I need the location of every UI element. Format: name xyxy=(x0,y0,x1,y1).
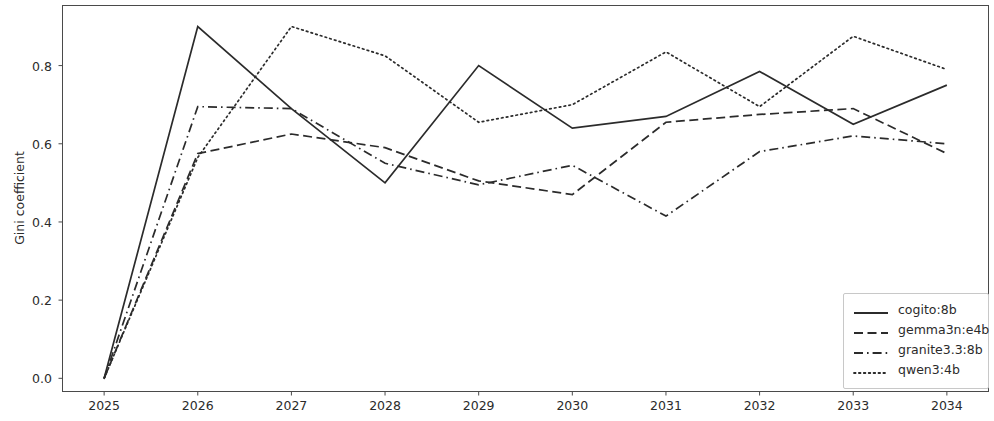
legend-line-swatch xyxy=(852,344,890,356)
legend-label: cogito:8b xyxy=(898,304,957,317)
x-tick-label: 2030 xyxy=(556,398,588,413)
axis-ticks xyxy=(59,66,947,396)
legend-item: gemma3n:e4b xyxy=(852,320,981,340)
series-line-gemma3n-e4b xyxy=(104,109,947,379)
chart-figure: Gini coefficient 0.00.20.40.60.8 cogito:… xyxy=(0,0,994,421)
series-line-qwen3-4b xyxy=(104,27,947,379)
legend-label: qwen3:4b xyxy=(898,364,960,377)
y-tick-label: 0.4 xyxy=(8,214,52,229)
x-tick-label: 2026 xyxy=(182,398,214,413)
x-tick-label: 2027 xyxy=(276,398,308,413)
x-tick-label: 2032 xyxy=(744,398,776,413)
legend-item: qwen3:4b xyxy=(852,360,981,380)
legend-item: granite3.3:8b xyxy=(852,340,981,360)
x-tick-label: 2028 xyxy=(369,398,401,413)
x-tick-label: 2031 xyxy=(650,398,682,413)
y-tick-label: 0.0 xyxy=(8,371,52,386)
x-tick-label: 2034 xyxy=(931,398,963,413)
y-tick-label: 0.8 xyxy=(8,58,52,73)
legend-label: granite3.3:8b xyxy=(898,344,983,357)
legend-label: gemma3n:e4b xyxy=(898,324,989,337)
legend-line-swatch xyxy=(852,324,890,336)
x-tick-label: 2033 xyxy=(837,398,869,413)
series-lines xyxy=(104,27,947,379)
legend-line-swatch xyxy=(852,364,890,376)
series-line-cogito-8b xyxy=(104,27,947,379)
x-tick-label: 2025 xyxy=(88,398,120,413)
y-tick-label: 0.2 xyxy=(8,293,52,308)
legend-item: cogito:8b xyxy=(852,300,981,320)
legend-line-swatch xyxy=(852,304,890,316)
y-tick-label: 0.6 xyxy=(8,136,52,151)
y-tick-label-group: 0.00.20.40.60.8 xyxy=(6,0,52,421)
legend-box: cogito:8bgemma3n:e4bgranite3.3:8bqwen3:4… xyxy=(843,293,989,389)
x-tick-label: 2029 xyxy=(463,398,495,413)
